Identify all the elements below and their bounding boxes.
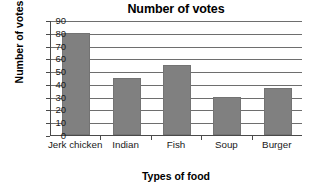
bar — [62, 33, 90, 135]
y-tick-mark — [46, 136, 50, 137]
bars-layer — [51, 21, 302, 135]
bar — [264, 88, 292, 135]
y-tick-mark — [46, 85, 50, 86]
chart-title: Number of votes — [50, 2, 302, 16]
y-axis-label: Number of votes — [12, 0, 26, 102]
bar-chart: Number of votes Number of votes 01020304… — [0, 0, 319, 190]
x-category-label: Burger — [246, 139, 308, 151]
y-tick-mark — [46, 47, 50, 48]
bar — [213, 97, 241, 135]
x-axis-label: Types of food — [50, 170, 302, 182]
y-tick-mark — [46, 21, 50, 22]
y-tick-mark — [46, 98, 50, 99]
bar-slot — [253, 21, 303, 135]
y-tick-mark — [46, 72, 50, 73]
y-tick-mark — [46, 59, 50, 60]
y-tick-mark — [46, 110, 50, 111]
bar — [113, 78, 141, 136]
y-tick-mark — [46, 123, 50, 124]
bar — [163, 65, 191, 135]
y-tick-mark — [46, 34, 50, 35]
y-axis-label-text: Number of votes — [13, 1, 25, 84]
bar-slot — [152, 21, 202, 135]
bar-slot — [202, 21, 252, 135]
bar-slot — [101, 21, 151, 135]
plot-area — [50, 21, 302, 136]
